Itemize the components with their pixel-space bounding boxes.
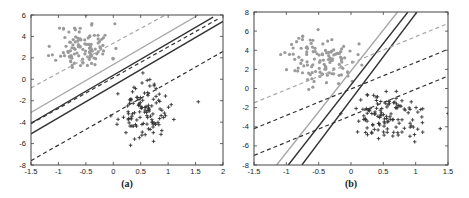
data-point-plus	[140, 81, 144, 85]
data-point-dot	[290, 43, 293, 46]
data-point-plus	[361, 108, 365, 112]
x-tick-label: 2	[221, 167, 225, 176]
data-point-plus	[152, 131, 156, 135]
data-point-dot	[300, 59, 303, 62]
data-point-dot	[94, 47, 97, 50]
y-tick-label: -8	[19, 161, 26, 170]
data-point-dot	[51, 53, 54, 56]
data-point-plus	[138, 110, 142, 114]
x-tick-label: -1.5	[248, 167, 261, 176]
y-tick-label: -6	[242, 141, 249, 150]
x-tick-label: 1.5	[190, 167, 200, 176]
data-point-plus	[159, 133, 163, 137]
data-point-plus	[366, 133, 370, 137]
data-point-plus	[172, 118, 176, 122]
x-tick-label: -0.5	[79, 167, 92, 176]
data-point-dot	[356, 53, 359, 56]
data-point-plus	[127, 121, 131, 125]
data-point-dot	[332, 53, 335, 56]
y-tick-label: 6	[22, 11, 26, 20]
data-point-dot	[98, 45, 101, 48]
data-point-plus	[152, 140, 156, 144]
data-point-dot	[87, 43, 90, 46]
data-point-plus	[400, 118, 404, 122]
data-point-plus	[421, 130, 425, 134]
x-tick-label: 1.5	[443, 167, 453, 176]
y-tick-label: 2	[22, 53, 26, 62]
data-point-dot	[311, 86, 314, 89]
data-point-plus	[359, 98, 363, 102]
data-point-dot	[79, 38, 82, 41]
data-point-dot	[81, 48, 84, 51]
data-point-dot	[318, 61, 321, 64]
data-point-plus	[416, 127, 420, 131]
data-point-plus	[375, 107, 379, 111]
data-point-dot	[293, 69, 296, 72]
data-point-dot	[311, 63, 314, 66]
data-point-dot	[67, 30, 70, 33]
x-tick-label: 1	[414, 167, 418, 176]
data-point-dot	[93, 63, 96, 66]
data-point-dot	[330, 38, 333, 41]
data-point-dot	[283, 51, 286, 54]
data-point-dot	[331, 59, 334, 62]
data-point-dot	[311, 45, 314, 48]
x-tick-label: -1.5	[25, 167, 38, 176]
y-tick-label: -4	[242, 122, 249, 131]
data-point-dot	[114, 47, 117, 50]
data-point-dot	[93, 34, 96, 37]
data-point-dot	[279, 53, 282, 56]
data-point-dot	[329, 51, 332, 54]
data-point-plus	[138, 136, 142, 140]
data-point-dot	[305, 60, 308, 63]
data-point-plus	[116, 118, 120, 122]
data-point-plus	[392, 131, 396, 135]
data-point-plus	[391, 134, 395, 138]
data-point-plus	[371, 123, 375, 127]
data-point-dot	[332, 48, 335, 51]
line-black-solid-right	[302, 12, 417, 165]
data-point-plus	[129, 143, 133, 147]
data-point-dot	[58, 27, 61, 30]
data-point-dot	[92, 56, 95, 59]
line-gray-solid	[31, 15, 198, 113]
data-point-dot	[96, 34, 99, 37]
x-tick-label: 0.5	[135, 167, 145, 176]
line-black-solid-left	[288, 12, 408, 165]
data-point-plus	[157, 92, 161, 96]
data-point-plus	[394, 125, 398, 129]
data-point-dot	[338, 63, 341, 66]
data-point-dot	[297, 66, 300, 69]
data-point-dot	[77, 43, 80, 46]
data-point-plus	[396, 118, 400, 122]
data-point-dot	[83, 52, 86, 55]
line-black-dashed-middle	[254, 49, 448, 128]
chart-panel-b: -1.5-1-0.500.511.5-8-6-4-202468(b)	[234, 0, 469, 198]
data-point-dot	[297, 37, 300, 40]
data-point-plus	[389, 118, 393, 122]
y-tick-label: 6	[245, 27, 249, 36]
data-point-dot	[78, 30, 81, 33]
y-tick-label: 0	[245, 84, 249, 93]
data-point-dot	[285, 68, 288, 71]
data-point-dot	[311, 39, 314, 42]
y-tick-label: -4	[19, 118, 26, 127]
data-point-plus	[373, 112, 377, 116]
data-point-plus	[140, 130, 144, 134]
data-point-dot	[323, 63, 326, 66]
data-point-dot	[74, 40, 77, 43]
data-point-dot	[325, 81, 328, 84]
data-point-plus	[413, 140, 417, 144]
data-point-dot	[343, 56, 346, 59]
data-point-dot	[69, 59, 72, 62]
data-point-plus	[141, 71, 145, 75]
data-point-dot	[79, 27, 82, 30]
data-point-dot	[328, 56, 331, 59]
x-tick-label: -1	[55, 167, 62, 176]
data-point-plus	[379, 100, 383, 104]
data-point-dot	[314, 70, 317, 73]
data-point-dot	[340, 73, 343, 76]
data-point-plus	[373, 128, 377, 132]
data-point-dot	[300, 47, 303, 50]
y-tick-label: 0	[22, 75, 26, 84]
